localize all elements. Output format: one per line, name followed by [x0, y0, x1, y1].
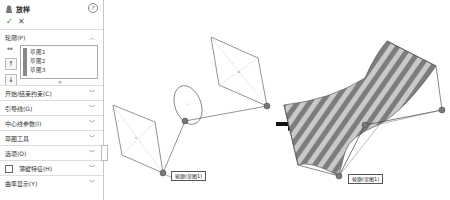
- thin-feature-checkbox[interactable]: [5, 165, 13, 173]
- profile-sketch-1: [113, 105, 163, 173]
- list-item[interactable]: 草图1: [30, 48, 46, 56]
- section-label: 选项(O): [5, 149, 26, 158]
- section-label: 薄壁特征(H): [19, 165, 52, 172]
- chevron-down-icon: ﹀: [89, 88, 95, 97]
- profile-tools: ⇔ ↑ ↓: [5, 44, 17, 90]
- section-guide-curves[interactable]: 引导线(G) ﹀: [0, 100, 103, 115]
- graphics-area[interactable]: 轮廓(草图1) 轮廓(草图1): [104, 0, 450, 200]
- connector-label-left[interactable]: 轮廓(草图1): [171, 171, 206, 181]
- chevron-down-icon: ﹀: [89, 118, 95, 127]
- loft-icon: [5, 5, 13, 14]
- profile-sketch-3: [211, 37, 267, 106]
- section-options[interactable]: 选项(O) ﹀: [0, 145, 103, 160]
- chevron-down-icon: ﹀: [89, 133, 95, 142]
- move-up-button[interactable]: ↑: [5, 58, 17, 70]
- loft-surface-preview: [284, 41, 445, 179]
- section-sketch-tools[interactable]: 草图工具 ﹀: [0, 130, 103, 145]
- section-profiles[interactable]: 轮廓(P) ︿: [0, 29, 103, 44]
- section-thin-feature[interactable]: 薄壁特征(H) ﹀: [0, 160, 103, 175]
- section-label: 草图工具: [5, 134, 29, 143]
- connector-label-right[interactable]: 轮廓(草图1): [348, 174, 383, 184]
- chevron-down-icon: ﹀: [89, 178, 95, 187]
- section-label: 引导线(G): [5, 104, 32, 113]
- section-label: 轮廓(P): [5, 33, 25, 42]
- ok-button[interactable]: ✓: [6, 17, 13, 26]
- list-item[interactable]: 草图3: [30, 66, 46, 74]
- section-label-wrap: 薄壁特征(H): [5, 164, 52, 173]
- list-item[interactable]: 草图2: [30, 57, 46, 65]
- profile-color-bar: [23, 48, 27, 76]
- section-curvature-display[interactable]: 曲率显示(Y) ﹀: [0, 175, 103, 190]
- section-label: 曲率显示(Y): [5, 179, 37, 188]
- sketch-diagram: [104, 0, 450, 200]
- chevron-down-icon: ﹀: [89, 163, 95, 172]
- section-label: 开始/结束约束(C): [5, 89, 52, 98]
- cancel-button[interactable]: ✕: [18, 17, 25, 26]
- chevron-down-icon: ﹀: [89, 103, 95, 112]
- select-other-button[interactable]: ⇔: [5, 44, 15, 54]
- profiles-list[interactable]: 草图1 草图2 草图3: [20, 45, 98, 79]
- section-label: 中心线参数(I): [5, 119, 41, 128]
- section-start-end-constraints[interactable]: 开始/结束约束(C) ﹀: [0, 85, 103, 100]
- chevron-down-icon: ﹀: [89, 148, 95, 157]
- section-centerline-parameters[interactable]: 中心线参数(I) ﹀: [0, 115, 103, 130]
- help-icon[interactable]: ?: [88, 3, 98, 13]
- feature-title: 放样: [16, 4, 30, 14]
- property-manager: 放样 ? ✓ ✕ 轮廓(P) ︿ ⇔ ↑ ↓ 草图1 草图2 草图3 ≡ 开始/…: [0, 0, 104, 200]
- feature-header: 放样: [5, 3, 30, 15]
- chevron-up-icon: ︿: [89, 32, 95, 41]
